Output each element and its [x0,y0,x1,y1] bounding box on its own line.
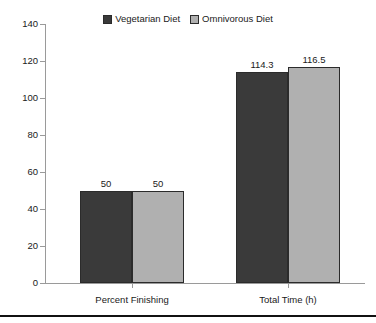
bar[interactable]: 114.3 [236,72,288,283]
y-tick-label: 80 [27,130,38,140]
legend-entry-vegetarian[interactable]: Vegetarian Diet [103,14,180,24]
y-tick-label: 20 [27,241,38,251]
y-tick-mark [40,24,45,25]
y-tick-label: 120 [22,56,38,66]
y-axis-line [45,24,46,283]
y-tick-label: 100 [22,93,38,103]
y-tick-mark [40,98,45,99]
legend-label-omnivorous: Omnivorous Diet [202,14,273,24]
y-tick-label: 140 [22,19,38,29]
x-tick-mark [288,283,289,288]
y-tick-mark [40,209,45,210]
x-axis-category-label: Percent Finishing [95,294,168,305]
x-axis-baseline [45,283,365,284]
bar[interactable]: 50 [80,191,132,284]
bottom-divider [0,315,376,317]
bar-chart: Vegetarian Diet Omnivorous Diet 02040608… [0,0,376,323]
plot-area: 020406080100120140 5050114.3116.5 Percen… [45,24,365,283]
bar-value-label: 50 [153,179,164,189]
bar-value-label: 50 [101,179,112,189]
y-tick-label: 60 [27,167,38,177]
y-tick-mark [40,283,45,284]
legend-entry-omnivorous[interactable]: Omnivorous Diet [190,14,273,24]
y-tick-mark [40,135,45,136]
bar-value-label: 114.3 [250,60,273,70]
y-tick-label: 40 [27,204,38,214]
bar[interactable]: 50 [132,191,184,284]
y-tick-mark [40,246,45,247]
y-tick-mark [40,172,45,173]
legend-swatch-vegetarian-icon [103,15,112,24]
x-axis-category-label: Total Time (h) [259,294,317,305]
legend-label-vegetarian: Vegetarian Diet [115,14,180,24]
bar[interactable]: 116.5 [288,67,340,283]
chart-legend: Vegetarian Diet Omnivorous Diet [0,14,376,24]
x-tick-mark [132,283,133,288]
y-tick-mark [40,61,45,62]
y-tick-label: 0 [33,278,38,288]
legend-swatch-omnivorous-icon [190,15,199,24]
bar-value-label: 116.5 [302,55,325,65]
